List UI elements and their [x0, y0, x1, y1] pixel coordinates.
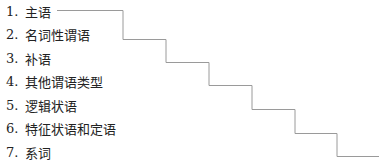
staircase-line [57, 11, 379, 157]
staircase-connector [0, 0, 379, 166]
